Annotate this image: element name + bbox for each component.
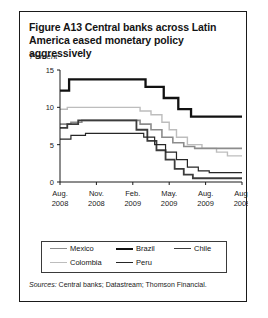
x-tick-label: 2009: [124, 199, 141, 208]
legend-row-1: MexicoBrazilChile: [42, 244, 228, 258]
x-tick-label: 2008: [88, 199, 105, 208]
chart-legend: MexicoBrazilChile ColombiaPeru: [41, 241, 227, 273]
x-tick-label: Aug.: [52, 189, 67, 198]
figure-panel: Figure A13 Central banks across Latin Am…: [19, 11, 247, 302]
legend-label: Brazil: [136, 244, 155, 253]
x-tick-label: 2009: [197, 199, 214, 208]
y-tick-label: 10: [46, 103, 54, 112]
sources-note: Sources: Central banks; Datastream; Thom…: [29, 281, 241, 288]
y-tick-label: 0: [50, 178, 54, 187]
figure-title: Figure A13 Central banks across Latin Am…: [29, 21, 240, 60]
legend-item-peru: Peru: [116, 258, 152, 267]
x-tick-label: Aug.: [234, 189, 248, 198]
x-tick-label: Feb.: [125, 189, 140, 198]
sources-text: Central banks; Datastream; Thomson Finan…: [57, 281, 207, 288]
legend-swatch-icon: [116, 262, 133, 263]
legend-item-chile: Chile: [174, 244, 211, 253]
chart-series-group: [60, 79, 242, 178]
y-tick-label: 5: [50, 141, 54, 150]
y-axis-ticks: 051015: [46, 66, 60, 187]
series-line-peru: [60, 133, 242, 172]
legend-swatch-icon: [116, 248, 133, 250]
legend-item-colombia: Colombia: [50, 258, 102, 267]
legend-label: Mexico: [70, 244, 94, 253]
x-tick-label: Aug.: [198, 189, 213, 198]
x-tick-label: May.: [161, 189, 177, 198]
x-axis-ticks: Aug.2008Nov.2008Feb.2009May.2009Aug.2009…: [52, 182, 248, 208]
y-tick-label: 15: [46, 66, 54, 75]
legend-row-2: ColombiaPeru: [42, 258, 228, 272]
y-axis-label: Percent: [30, 52, 58, 61]
legend-swatch-icon: [50, 248, 67, 249]
sources-label: Sources:: [29, 281, 57, 288]
figure-title-line1: Figure A13 Central banks across Latin: [29, 21, 216, 33]
legend-swatch-icon: [174, 248, 191, 249]
x-tick-label: 2009: [234, 199, 248, 208]
x-tick-label: 2009: [161, 199, 178, 208]
series-line-mexico: [60, 120, 242, 148]
legend-label: Colombia: [70, 258, 102, 267]
legend-item-mexico: Mexico: [50, 244, 94, 253]
x-tick-label: Nov.: [89, 189, 104, 198]
line-chart: 051015 Aug.2008Nov.2008Feb.2009May.2009A…: [20, 64, 248, 212]
legend-swatch-icon: [50, 262, 67, 263]
legend-label: Chile: [194, 244, 211, 253]
legend-label: Peru: [136, 258, 152, 267]
legend-item-brazil: Brazil: [116, 244, 155, 253]
x-tick-label: 2008: [52, 199, 69, 208]
chart-plot-area: 051015 Aug.2008Nov.2008Feb.2009May.2009A…: [20, 64, 248, 212]
